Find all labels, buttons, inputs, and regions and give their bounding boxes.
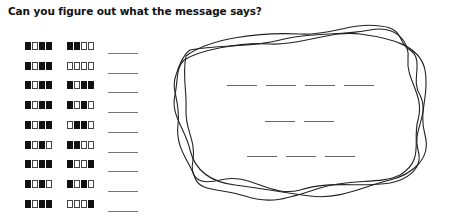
message-letter-blank[interactable] bbox=[247, 156, 277, 157]
message-letter-blank[interactable] bbox=[286, 156, 316, 157]
message-letter-blank[interactable] bbox=[266, 85, 296, 86]
message-frame-scribble bbox=[0, 0, 451, 221]
message-letter-blank[interactable] bbox=[325, 156, 355, 157]
message-letter-blank[interactable] bbox=[227, 85, 257, 86]
message-letter-blank[interactable] bbox=[344, 85, 374, 86]
message-letter-blank[interactable] bbox=[265, 121, 295, 122]
message-letter-blank[interactable] bbox=[305, 85, 335, 86]
message-letter-blank[interactable] bbox=[304, 121, 334, 122]
